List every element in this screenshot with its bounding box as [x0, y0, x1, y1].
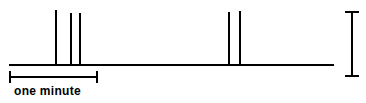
- spike-tick: [79, 13, 81, 65]
- time-scale-bar-left-cap: [9, 71, 11, 83]
- spike-tick: [55, 10, 57, 65]
- spike-train-chart: one minute: [0, 0, 366, 103]
- time-scale-bar-right-cap: [96, 71, 98, 83]
- amplitude-scale-bar: [351, 11, 353, 77]
- amplitude-scale-bar-bottom-cap: [345, 75, 359, 77]
- spike-tick: [239, 11, 241, 65]
- recording-baseline: [9, 64, 334, 66]
- spike-tick: [70, 13, 72, 65]
- time-scale-bar-label: one minute: [14, 85, 81, 98]
- amplitude-scale-bar-top-cap: [345, 11, 359, 13]
- time-scale-bar: [9, 76, 98, 78]
- spike-tick: [228, 12, 230, 65]
